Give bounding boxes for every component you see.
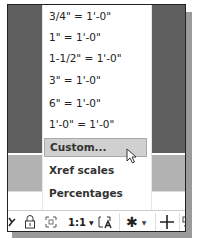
menu-item-3-inch[interactable]: 3" = 1'-0" — [49, 74, 101, 86]
mouse-cursor-icon — [126, 148, 138, 164]
menu-item-3-4-inch[interactable]: 3/4" = 1'-0" — [49, 10, 111, 22]
workspace-settings-button[interactable]: ✱ ▼ — [126, 213, 146, 231]
menu-item-xref-scales[interactable]: Xref scales — [49, 164, 114, 176]
toolbar-separator — [119, 213, 120, 231]
partial-right-icon[interactable] — [182, 213, 186, 231]
menu-item-1-1-2-inch[interactable]: 1-1/2" = 1'-0" — [49, 52, 122, 64]
chevron-down-icon: ▼ — [89, 219, 94, 226]
plus-icon[interactable] — [160, 213, 174, 231]
partial-left-icon[interactable] — [8, 213, 16, 231]
panel-right — [150, 155, 186, 191]
annotation-visibility-icon[interactable] — [98, 213, 114, 231]
menu-item-1-inch[interactable]: 1" = 1'-0" — [49, 31, 101, 43]
strip-left — [8, 191, 42, 212]
scale-list-menu: 3/4" = 1'-0" 1" = 1'-0" 1-1/2" = 1'-0" 3… — [42, 5, 152, 211]
screenshot-frame: 3/4" = 1'-0" 1" = 1'-0" 1-1/2" = 1'-0" 3… — [7, 4, 186, 232]
drawing-area-right — [150, 5, 186, 153]
toolbar-separator — [179, 213, 180, 231]
chevron-down-icon: ▼ — [142, 219, 147, 226]
toolbar-separator — [155, 213, 156, 231]
menu-item-percentages[interactable]: Percentages — [49, 187, 123, 199]
strip-right — [150, 191, 186, 212]
maximize-viewport-icon[interactable] — [45, 213, 57, 231]
status-bar-toolbar: 1:1 ▼ ✱ ▼ — [8, 210, 186, 232]
gear-icon: ✱ — [126, 214, 138, 230]
panel-left — [8, 155, 42, 191]
annotation-scale-dropdown[interactable]: 1:1 ▼ — [68, 213, 94, 231]
scale-value: 1:1 — [68, 217, 86, 228]
menu-item-6-inch[interactable]: 6" = 1'-0" — [49, 97, 101, 109]
lock-icon[interactable] — [24, 213, 36, 231]
drawing-area-left — [8, 5, 42, 153]
menu-item-1-foot[interactable]: 1'-0" = 1'-0" — [49, 118, 114, 130]
